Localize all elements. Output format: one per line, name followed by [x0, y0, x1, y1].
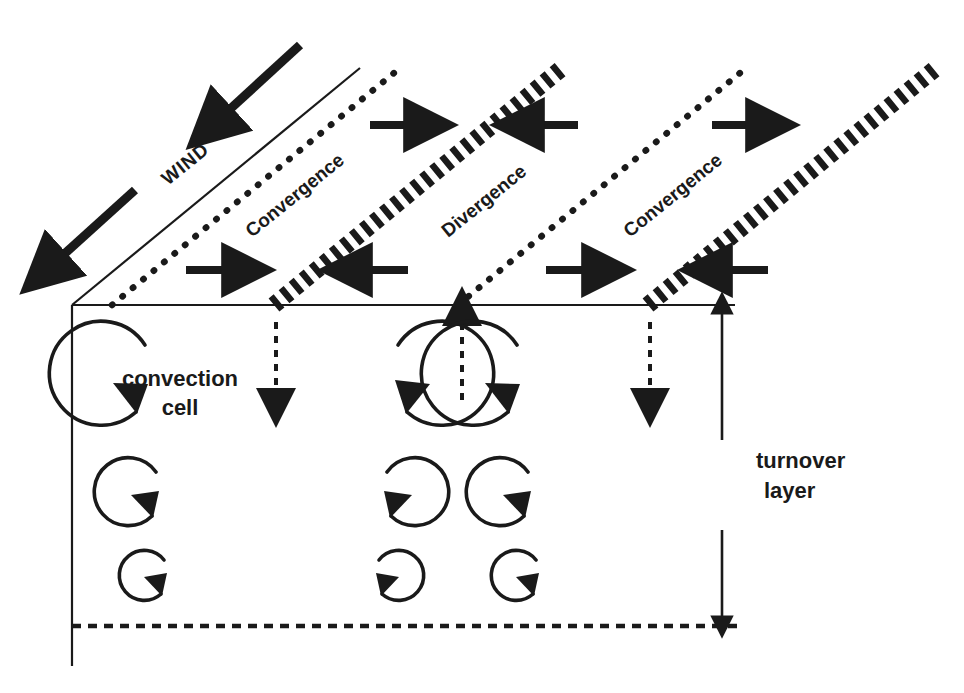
- turnover-label-line2: layer: [764, 478, 816, 503]
- convection-cell-label-line2: cell: [162, 395, 199, 420]
- convection-diagram-svg: WIND Convergence Divergence Convergence: [0, 0, 964, 693]
- convection-cell-label-line1: convection: [122, 366, 238, 391]
- turnover-label-line1: turnover: [756, 448, 846, 473]
- diagram-root: WIND Convergence Divergence Convergence: [0, 0, 964, 693]
